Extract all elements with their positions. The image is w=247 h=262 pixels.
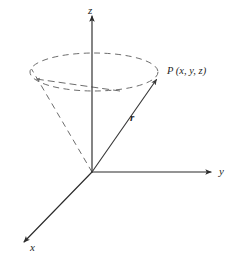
cone-generator-left-dashed xyxy=(32,69,93,172)
figure-canvas xyxy=(0,0,247,262)
x-axis xyxy=(24,172,92,242)
coordinate-system-figure: z y x r P (x, y, z) xyxy=(0,0,247,262)
y-axis-label: y xyxy=(219,166,224,177)
position-vector-r xyxy=(92,80,157,173)
revolution-circle-dashed xyxy=(30,53,158,91)
z-axis-label: z xyxy=(88,5,92,16)
vector-r-label: r xyxy=(130,112,134,123)
x-axis-label: x xyxy=(30,242,35,253)
point-p-label: P (x, y, z) xyxy=(167,66,206,77)
